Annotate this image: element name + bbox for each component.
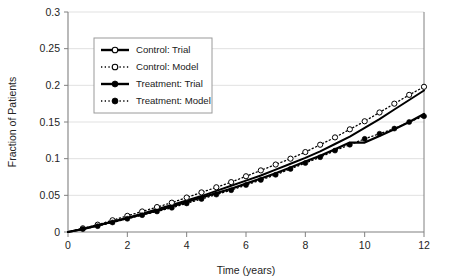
data-point xyxy=(288,166,293,171)
data-point xyxy=(392,101,397,106)
line-chart: 00.050.10.150.20.250.3024681012 Time (ye… xyxy=(0,0,451,280)
data-point xyxy=(377,110,382,115)
data-point xyxy=(95,224,100,229)
data-point xyxy=(258,168,263,173)
series-3 xyxy=(68,114,424,232)
legend-marker-sample xyxy=(112,47,118,53)
data-point xyxy=(273,162,278,167)
data-point xyxy=(318,142,323,147)
x-tick-label: 12 xyxy=(418,239,430,251)
data-point xyxy=(347,142,352,147)
data-point xyxy=(347,127,352,132)
data-point xyxy=(243,174,248,179)
data-point xyxy=(140,213,145,218)
data-point xyxy=(362,136,367,141)
data-point xyxy=(258,177,263,182)
data-point xyxy=(214,192,219,197)
data-point xyxy=(362,119,367,124)
legend-marker-sample xyxy=(112,98,118,104)
data-point xyxy=(184,195,189,200)
data-point xyxy=(155,209,160,214)
data-point xyxy=(229,180,234,185)
x-tick-label: 6 xyxy=(243,239,249,251)
legend-marker-sample xyxy=(112,64,118,70)
y-tick-label: 0.1 xyxy=(45,152,60,164)
data-point xyxy=(184,201,189,206)
data-point xyxy=(422,114,427,119)
x-axis-title: Time (years) xyxy=(217,264,276,276)
data-point xyxy=(80,227,85,232)
y-tick-label: 0.3 xyxy=(45,6,60,18)
data-point xyxy=(421,84,426,89)
legend-label: Control: Trial xyxy=(136,44,190,55)
x-tick-label: 4 xyxy=(184,239,190,251)
series-4 xyxy=(68,114,427,232)
legend-marker-sample xyxy=(112,81,118,87)
x-tick-label: 2 xyxy=(124,239,130,251)
data-point xyxy=(333,148,338,153)
data-point xyxy=(199,190,204,195)
series-line xyxy=(68,114,424,232)
data-point xyxy=(273,172,278,177)
data-point xyxy=(229,188,234,193)
y-tick-label: 0.05 xyxy=(40,189,61,201)
data-point xyxy=(303,161,308,166)
y-tick-label: 0 xyxy=(54,226,60,238)
data-point xyxy=(407,120,412,125)
chart-legend: Control: TrialControl: ModelTreatment: T… xyxy=(94,38,212,113)
x-tick-label: 8 xyxy=(302,239,308,251)
y-axis-title: Fraction of Patients xyxy=(6,77,18,167)
data-point xyxy=(110,220,115,225)
chart-figure: 00.050.10.150.20.250.3024681012 Time (ye… xyxy=(0,0,451,280)
legend-label: Treatment: Trial xyxy=(136,78,203,89)
legend-label: Control: Model xyxy=(136,61,198,72)
data-point xyxy=(288,156,293,161)
data-point xyxy=(407,92,412,97)
data-point xyxy=(244,183,249,188)
legend-label: Treatment: Model xyxy=(136,95,211,106)
data-point xyxy=(318,155,323,160)
data-point xyxy=(214,185,219,190)
data-point xyxy=(169,200,174,205)
data-point xyxy=(125,216,130,221)
data-point xyxy=(332,135,337,140)
y-tick-label: 0.25 xyxy=(40,42,61,54)
data-point xyxy=(392,126,397,131)
data-point xyxy=(169,205,174,210)
x-tick-label: 0 xyxy=(65,239,71,251)
x-tick-label: 10 xyxy=(359,239,371,251)
data-point xyxy=(377,131,382,136)
y-tick-label: 0.15 xyxy=(40,116,61,128)
data-point xyxy=(303,149,308,154)
y-tick-label: 0.2 xyxy=(45,79,60,91)
data-point xyxy=(199,197,204,202)
